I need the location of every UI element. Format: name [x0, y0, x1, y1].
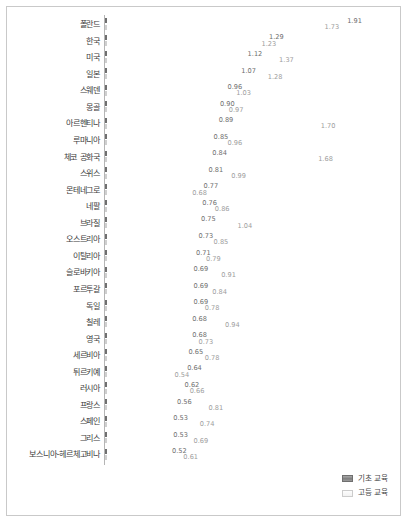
bar-value-label: 1.03	[235, 90, 251, 97]
bar-primary[interactable]: 0.68	[105, 316, 191, 321]
legend-label-higher-education: 고등 교육	[358, 489, 388, 497]
bar-fill	[105, 91, 107, 96]
bar-primary[interactable]: 1.12	[105, 51, 246, 56]
bar-secondary[interactable]: 1.37	[105, 58, 278, 63]
bar-secondary[interactable]: 1.70	[105, 124, 319, 129]
category-label: 독일	[7, 301, 100, 309]
bar-group: 0.891.70	[105, 115, 398, 131]
bar-secondary[interactable]: 1.73	[105, 25, 323, 30]
category-label: 네팔	[7, 202, 100, 210]
bar-primary[interactable]: 0.90	[105, 101, 218, 106]
bar-secondary[interactable]: 0.66	[105, 389, 188, 394]
bar-primary[interactable]: 0.77	[105, 184, 202, 189]
bar-secondary[interactable]: 0.81	[105, 405, 207, 410]
bar-value-label: 0.68	[191, 189, 207, 196]
bar-primary[interactable]: 0.69	[105, 300, 192, 305]
bar-primary[interactable]: 0.69	[105, 283, 192, 288]
bar-row: 그리스0.530.69	[7, 430, 400, 446]
bar-primary[interactable]: 0.81	[105, 167, 207, 172]
category-label: 한국	[7, 37, 100, 45]
bar-value-label: 1.73	[323, 24, 339, 31]
bar-secondary[interactable]: 1.28	[105, 74, 266, 79]
bar-primary[interactable]: 0.71	[105, 250, 194, 255]
bar-secondary[interactable]: 0.73	[105, 339, 197, 344]
bar-secondary[interactable]: 0.78	[105, 356, 203, 361]
bar-fill	[105, 184, 107, 189]
bar-primary[interactable]: 0.53	[105, 416, 172, 421]
bar-primary[interactable]: 1.91	[105, 18, 346, 23]
category-label: 러시아	[7, 384, 100, 392]
bar-secondary[interactable]: 0.84	[105, 289, 211, 294]
bar-primary[interactable]: 0.53	[105, 432, 172, 437]
bar-secondary[interactable]: 0.74	[105, 422, 198, 427]
bar-fill	[105, 438, 107, 443]
bar-primary[interactable]: 0.89	[105, 118, 217, 123]
bar-secondary[interactable]: 0.86	[105, 207, 213, 212]
bar-value-label: 0.97	[227, 107, 243, 114]
bar-value-label: 0.81	[207, 404, 223, 411]
bar-fill	[105, 35, 107, 40]
bar-secondary[interactable]: 1.04	[105, 223, 236, 228]
bar-value-label: 0.66	[188, 388, 204, 395]
bar-primary[interactable]: 0.65	[105, 349, 187, 354]
bar-primary[interactable]: 0.56	[105, 399, 176, 404]
bar-fill	[105, 389, 107, 394]
legend-item-secondary[interactable]: 고등 교육	[342, 489, 388, 497]
category-label: 튀르키예	[7, 368, 100, 376]
bar-row: 몽골0.900.97	[7, 99, 400, 115]
bar-value-label: 0.78	[203, 355, 219, 362]
bar-secondary[interactable]: 0.94	[105, 322, 223, 327]
bar-primary[interactable]: 1.07	[105, 68, 240, 73]
bar-secondary[interactable]: 0.69	[105, 438, 192, 443]
bar-value-label: 0.69	[192, 266, 208, 273]
bar-primary[interactable]: 0.75	[105, 217, 200, 222]
bar-secondary[interactable]: 1.03	[105, 91, 235, 96]
bar-secondary[interactable]: 0.97	[105, 107, 227, 112]
bar-value-label: 0.86	[213, 206, 229, 213]
bar-primary[interactable]: 0.84	[105, 151, 211, 156]
bar-fill	[105, 85, 107, 90]
bar-row: 튀르키예0.640.54	[7, 364, 400, 380]
bar-secondary[interactable]: 1.68	[105, 157, 317, 162]
bar-secondary[interactable]: 0.96	[105, 140, 226, 145]
bar-secondary[interactable]: 0.68	[105, 190, 191, 195]
bar-value-label: 0.81	[207, 167, 223, 174]
bar-primary[interactable]: 1.29	[105, 35, 268, 40]
bar-fill	[105, 107, 107, 112]
category-label: 몽골	[7, 103, 100, 111]
legend-item-primary[interactable]: 기초 교육	[342, 475, 388, 483]
bar-group: 0.530.69	[105, 430, 398, 446]
bar-row: 체코 공화국0.841.68	[7, 148, 400, 164]
chart-legend: 기초 교육 고등 교육	[342, 468, 388, 497]
bar-primary[interactable]: 0.68	[105, 333, 191, 338]
bar-primary[interactable]: 0.64	[105, 366, 186, 371]
category-label: 몬테네그로	[7, 186, 100, 194]
bar-fill	[105, 58, 107, 63]
bar-primary[interactable]: 0.69	[105, 267, 192, 272]
bar-secondary[interactable]: 0.61	[105, 455, 182, 460]
bar-secondary[interactable]: 0.54	[105, 372, 173, 377]
bar-primary[interactable]: 0.73	[105, 234, 197, 239]
category-label: 체코 공화국	[7, 153, 100, 161]
bar-fill	[105, 422, 107, 427]
bar-secondary[interactable]: 0.85	[105, 240, 212, 245]
bar-secondary[interactable]: 0.99	[105, 174, 230, 179]
bar-primary[interactable]: 0.62	[105, 382, 183, 387]
bar-primary[interactable]: 0.76	[105, 200, 201, 205]
bar-primary[interactable]: 0.96	[105, 85, 226, 90]
chart-frame: 폴란드1.911.73한국1.291.23미국1.121.37일본1.071.2…	[6, 6, 401, 516]
bar-value-label: 1.12	[246, 51, 262, 58]
bar-secondary[interactable]: 1.23	[105, 41, 260, 46]
bar-primary[interactable]: 0.52	[105, 449, 171, 454]
bar-primary[interactable]: 0.85	[105, 134, 212, 139]
bar-value-label: 0.56	[176, 398, 192, 405]
bar-row: 프랑스0.560.81	[7, 397, 400, 413]
bar-fill	[105, 283, 107, 288]
bar-secondary[interactable]: 0.78	[105, 306, 203, 311]
bar-value-label: 0.53	[172, 431, 188, 438]
bar-secondary[interactable]: 0.79	[105, 256, 205, 261]
bar-value-label: 0.91	[220, 272, 236, 279]
bar-row: 스페인0.530.74	[7, 413, 400, 429]
bar-secondary[interactable]: 0.91	[105, 273, 220, 278]
bar-group: 0.810.99	[105, 165, 398, 181]
